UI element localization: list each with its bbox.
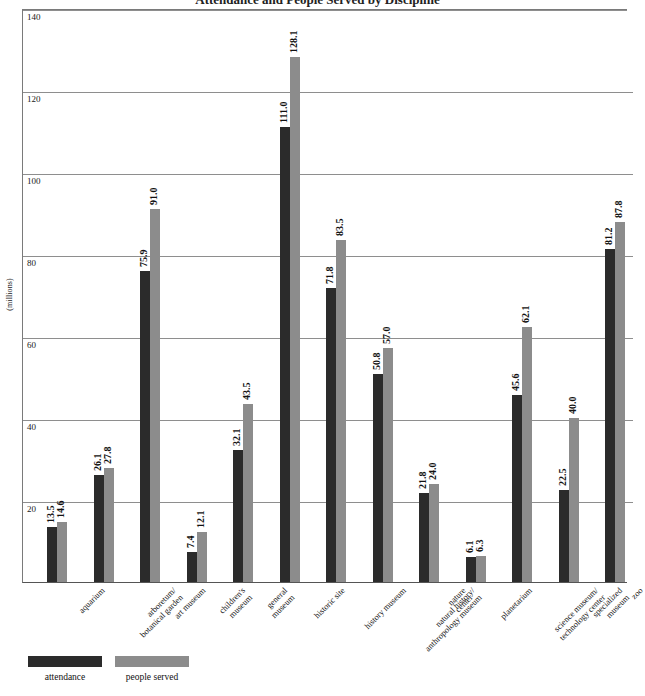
bar-people-served[interactable]: 43.5 <box>243 404 253 582</box>
x-label-children-s-museum: children'smuseum <box>217 586 254 623</box>
bar-attendance[interactable]: 75.9 <box>140 271 150 582</box>
bar-group: 7.412.1 <box>187 10 207 582</box>
bar-value-label: 12.1 <box>196 511 206 529</box>
bar-people-served[interactable]: 87.8 <box>615 222 625 582</box>
bar-value-label: 6.3 <box>475 540 485 553</box>
bar-value-label: 128.1 <box>289 30 299 53</box>
bar-value-label: 27.8 <box>103 447 113 465</box>
bar-attendance[interactable]: 45.6 <box>512 395 522 582</box>
bar-group: 32.143.5 <box>233 10 253 582</box>
bar-people-served[interactable]: 128.1 <box>290 57 300 582</box>
bar-group: 50.857.0 <box>373 10 393 582</box>
bar-people-served[interactable]: 40.0 <box>569 418 579 582</box>
bar-value-label: 14.6 <box>56 501 66 519</box>
bar-people-served[interactable]: 6.3 <box>476 556 486 582</box>
x-label-aquarium: aquarium <box>77 586 106 615</box>
x-axis-category-labels: aquariumarboretum/botanical gardenart mu… <box>22 586 627 652</box>
bar-people-served[interactable]: 24.0 <box>429 484 439 582</box>
bar-value-label: 81.2 <box>604 228 614 246</box>
bar-people-served[interactable]: 27.8 <box>104 468 114 582</box>
legend-label-people-served: people served <box>97 672 207 683</box>
bar-value-label: 83.5 <box>335 218 345 236</box>
bar-people-served[interactable]: 91.0 <box>150 209 160 582</box>
bar-value-label: 50.8 <box>372 352 382 370</box>
bar-group: 6.16.3 <box>466 10 486 582</box>
bar-attendance[interactable]: 111.0 <box>280 127 290 582</box>
bar-value-label: 22.5 <box>558 468 568 486</box>
x-label-planetarium: planetarium <box>499 586 534 621</box>
plot-area: 20406080100120140 13.514.626.127.875.991… <box>22 9 627 583</box>
bar-series-container: 13.514.626.127.875.991.07.412.132.143.51… <box>23 10 627 582</box>
bar-value-label: 62.1 <box>521 306 531 324</box>
chart-title-cropped: Attendance and People Served by Discipli… <box>0 0 635 7</box>
x-label-history-museum: history museum <box>363 586 408 631</box>
bar-attendance[interactable]: 26.1 <box>94 475 104 582</box>
x-label-general-museum: generalmuseum <box>263 586 297 620</box>
bar-value-label: 7.4 <box>186 535 196 548</box>
bar-attendance[interactable]: 13.5 <box>47 527 57 582</box>
bar-value-label: 40.0 <box>568 397 578 415</box>
bar-people-served[interactable]: 83.5 <box>336 240 346 582</box>
bar-group: 13.514.6 <box>47 10 67 582</box>
legend-swatch-attendance <box>28 656 102 667</box>
bar-group: 71.883.5 <box>326 10 346 582</box>
y-axis-label: (millions) <box>5 265 14 325</box>
bar-group: 75.991.0 <box>140 10 160 582</box>
bar-attendance[interactable]: 32.1 <box>233 450 243 582</box>
bar-group: 21.824.0 <box>419 10 439 582</box>
bar-attendance[interactable]: 6.1 <box>466 557 476 582</box>
chart-legend: attendance people served <box>14 656 274 692</box>
bar-people-served[interactable]: 12.1 <box>197 532 207 582</box>
bar-value-label: 75.9 <box>139 249 149 267</box>
bar-group: 111.0128.1 <box>280 10 300 582</box>
bar-value-label: 57.0 <box>382 327 392 345</box>
bar-attendance[interactable]: 71.8 <box>326 288 336 582</box>
bar-people-served[interactable]: 57.0 <box>383 348 393 582</box>
bar-attendance[interactable]: 50.8 <box>373 374 383 582</box>
bar-group: 26.127.8 <box>94 10 114 582</box>
legend-swatch-people-served <box>115 656 189 667</box>
bar-group: 45.662.1 <box>512 10 532 582</box>
bar-people-served[interactable]: 62.1 <box>522 327 532 582</box>
bar-value-label: 45.6 <box>511 374 521 392</box>
bar-value-label: 87.8 <box>614 201 624 219</box>
bar-attendance[interactable]: 21.8 <box>419 493 429 582</box>
bar-attendance[interactable]: 7.4 <box>187 552 197 582</box>
bar-attendance[interactable]: 81.2 <box>605 249 615 582</box>
x-label-zoo: zoo <box>630 586 645 601</box>
bar-group: 81.287.8 <box>605 10 625 582</box>
bar-value-label: 71.8 <box>325 266 335 284</box>
bar-value-label: 91.0 <box>149 187 159 205</box>
bar-value-label: 24.0 <box>428 462 438 480</box>
chart-title-text: Attendance and People Served by Discipli… <box>195 0 439 6</box>
bar-attendance[interactable]: 22.5 <box>559 490 569 582</box>
x-label-historic-site: historic site <box>312 586 347 621</box>
bar-people-served[interactable]: 14.6 <box>57 522 67 582</box>
bar-group: 22.540.0 <box>559 10 579 582</box>
bar-value-label: 32.1 <box>232 429 242 447</box>
bar-value-label: 111.0 <box>279 102 289 123</box>
bar-value-label: 43.5 <box>242 382 252 400</box>
